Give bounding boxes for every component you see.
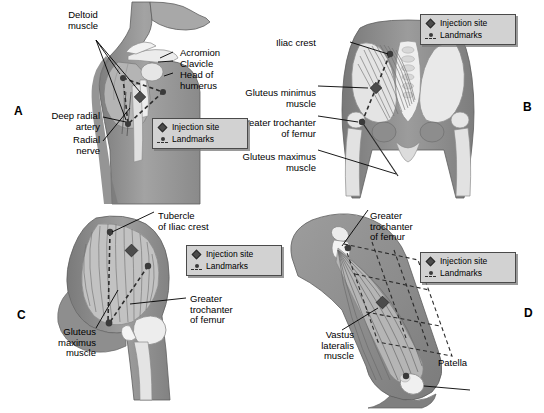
- legend-landmarks-label: Landmarks: [206, 262, 248, 271]
- legend-landmarks-label: Landmarks: [440, 269, 482, 278]
- label-vastus-lateralis-muscle: Vastus lateralis muscle: [296, 330, 354, 362]
- legend-row-injection-site: Injection site: [157, 122, 242, 133]
- label-gluteus-maximus-muscle-b: Gluteus maximus muscle: [224, 152, 316, 173]
- label-tubercle-of-iliac-crest: Tubercle of Iliac crest: [158, 211, 246, 232]
- legend-injection-site-label: Injection site: [440, 257, 487, 266]
- legend-row-landmarks: Landmarks: [425, 30, 510, 41]
- label-deep-radial-artery: Deep radial artery: [24, 111, 100, 132]
- landmarks-icon: [425, 33, 436, 39]
- panel-letter-d: D: [524, 306, 533, 320]
- legend-panel-c: Injection site Landmarks: [186, 245, 282, 276]
- injection-site-icon: [425, 258, 436, 265]
- injection-site-icon: [425, 20, 436, 27]
- injection-sites-figure: A B C D Deltoid muscle Acromion Clavicle…: [0, 0, 544, 413]
- legend-panel-d: Injection site Landmarks: [420, 252, 516, 283]
- label-greater-trochanter-of-femur-c: Greater trochanter of femur: [190, 294, 264, 326]
- legend-row-landmarks: Landmarks: [157, 134, 242, 145]
- legend-landmarks-label: Landmarks: [172, 135, 214, 144]
- legend-injection-site-label: Injection site: [172, 123, 219, 132]
- legend-row-landmarks: Landmarks: [191, 261, 276, 272]
- legend-injection-site-label: Injection site: [440, 19, 487, 28]
- label-greater-trochanter-of-femur-d: Greater trochanter of femur: [370, 211, 444, 243]
- label-gluteus-minimus-muscle: Gluteus minimus muscle: [228, 88, 316, 109]
- legend-row-injection-site: Injection site: [425, 256, 510, 267]
- legend-panel-a: Injection site Landmarks: [152, 118, 248, 149]
- label-iliac-crest: Iliac crest: [258, 38, 316, 49]
- label-gluteus-maximus-muscle-c: Gluteus maximus muscle: [34, 327, 96, 359]
- legend-row-landmarks: Landmarks: [425, 268, 510, 279]
- legend-row-injection-site: Injection site: [425, 18, 510, 29]
- landmarks-icon: [425, 271, 436, 277]
- label-patella: Patella: [438, 358, 494, 369]
- legend-landmarks-label: Landmarks: [440, 31, 482, 40]
- landmarks-icon: [191, 264, 202, 270]
- injection-site-icon: [191, 251, 202, 258]
- label-clavicle: Clavicle: [180, 59, 260, 70]
- label-acromion: Acromion: [180, 48, 260, 59]
- injection-site-icon: [157, 124, 168, 131]
- legend-panel-b: Injection site Landmarks: [420, 14, 516, 45]
- label-radial-nerve: Radial nerve: [24, 135, 100, 156]
- panel-letter-b: B: [523, 100, 532, 114]
- panel-letter-a: A: [14, 104, 23, 118]
- legend-row-injection-site: Injection site: [191, 249, 276, 260]
- legend-injection-site-label: Injection site: [206, 250, 253, 259]
- panel-letter-c: C: [17, 308, 26, 322]
- label-deltoid-muscle: Deltoid muscle: [52, 10, 114, 31]
- landmarks-icon: [157, 137, 168, 143]
